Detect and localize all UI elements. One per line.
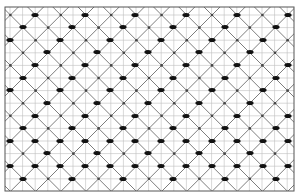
stitch-dot [131,139,138,143]
lattice-node [9,14,12,17]
stitch-dot [208,38,215,42]
stitch-dot [68,76,75,80]
lattice-node [22,152,25,155]
stitch-dot [169,177,176,181]
stitch-dot [119,25,126,29]
lattice-node [60,64,63,67]
lattice-node [274,52,277,55]
stitch-dot [195,101,202,105]
lattice-node [160,115,163,118]
lattice-node [97,127,100,130]
lattice-node [97,26,100,29]
stitch-dot [93,101,100,105]
lattice-node [186,39,189,42]
stitch-dot [195,151,202,155]
stitch-dot [259,139,266,143]
lattice-node [72,52,75,55]
stitch-dot [233,13,240,17]
lattice-node [34,89,37,92]
stitch-dot [131,13,138,17]
stitch-dot [119,177,126,181]
lattice-node [261,14,264,17]
stitch-dot [221,126,228,130]
stitch-dot [144,50,151,54]
lattice-node [22,52,25,55]
stitch-dot [19,76,26,80]
stitch-dot [43,151,50,155]
stitch-dot [157,38,164,42]
stitch-dot [31,114,38,118]
lattice-node [60,14,63,17]
lattice-node [198,26,201,29]
lattice-node [223,52,226,55]
lattice-node [110,115,113,118]
lattice-node [123,52,126,55]
lattice-node [85,39,88,42]
lattice-node [110,14,113,17]
stitch-dot [259,88,266,92]
stitch-dot [208,139,215,143]
lattice-node [123,102,126,105]
stitch-dot [68,126,75,130]
stitch-dot [272,177,279,181]
lattice-node [249,77,252,80]
stitch-dot [106,139,113,143]
lattice-node [198,178,201,181]
stitch-dot [81,164,88,168]
stitch-dot [284,63,291,67]
stitch-dot [272,76,279,80]
lattice-node [110,64,113,67]
lattice-node [274,152,277,155]
lattice-node [22,102,25,105]
lattice-node [47,178,50,181]
lattice-node [286,89,289,92]
lattice-node [173,52,176,55]
stitch-dot [169,25,176,29]
stitch-dot [182,63,189,67]
stitch-dot [259,164,266,168]
stitch-dot [106,164,113,168]
lattice-node [249,127,252,130]
stitch-dot [106,88,113,92]
stitch-dot [182,13,189,17]
stitch-dot [119,126,126,130]
lattice-node [72,102,75,105]
stitch-dot [208,164,215,168]
lattice-node [211,64,214,67]
stitch-dot [246,101,253,105]
stitch-dot [68,25,75,29]
stitch-dot [43,50,50,54]
lattice-node [173,102,176,105]
stitch-dot [31,13,38,17]
stitch-dot [131,164,138,168]
stitch-dot [233,114,240,118]
stitch-dot [233,139,240,143]
lattice-node [261,64,264,67]
stitch-dot [221,25,228,29]
stitch-dot [233,63,240,67]
lattice-node [236,89,239,92]
stitch-dot [272,25,279,29]
lattice-node [135,39,138,42]
lattice-node [198,127,201,130]
stitch-dot [119,76,126,80]
lattice-node [249,178,252,181]
stitch-dot [81,139,88,143]
lattice-node [135,89,138,92]
lattice-node [223,152,226,155]
stitch-dot [31,139,38,143]
stitch-dot [182,164,189,168]
stitch-dot [81,63,88,67]
lattice-node [34,39,37,42]
stitch-dot [195,50,202,54]
lattice-node [123,152,126,155]
lattice-node [47,26,50,29]
stitch-dot [81,114,88,118]
lattice-node [60,115,63,118]
stitch-dot [19,25,26,29]
stitch-dot [68,177,75,181]
lattice-node [286,39,289,42]
stitch-dot [31,164,38,168]
stitch-dot [131,63,138,67]
stitch-dot [157,139,164,143]
